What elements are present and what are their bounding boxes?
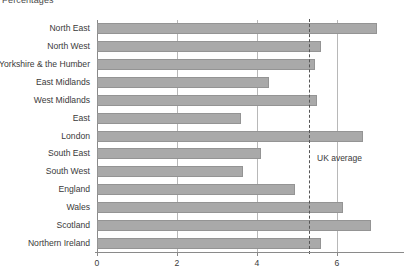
category-label-yorkshire-the-humber: Yorkshire & the Humber: [0, 59, 90, 70]
bar-chart: Percentages North EastNorth WestYorkshir…: [0, 0, 406, 277]
bar-england: [97, 184, 295, 195]
bar-row: [97, 202, 337, 213]
bar-scotland: [97, 220, 371, 231]
bar-row: [97, 77, 337, 88]
bar-row: [97, 113, 337, 124]
bar-row: [97, 95, 337, 106]
bar-row: [97, 220, 337, 231]
category-label-scotland: Scotland: [57, 220, 90, 231]
y-axis-category-labels: North EastNorth WestYorkshire & the Humb…: [0, 20, 93, 252]
category-label-south-west: South West: [46, 166, 90, 177]
category-label-wales: Wales: [66, 202, 90, 213]
x-tick-mark-2: [177, 252, 178, 256]
chart-title: Percentages: [2, 0, 54, 5]
x-tick-label-0: 0: [95, 258, 100, 268]
bar-row: [97, 23, 337, 34]
x-tick-label-4: 4: [255, 258, 260, 268]
bar-wales: [97, 202, 343, 213]
bar-south-west: [97, 166, 243, 177]
x-axis-line: [95, 252, 404, 253]
bar-row: [97, 184, 337, 195]
bar-north-west: [97, 41, 321, 52]
bar-west-midlands: [97, 95, 317, 106]
category-label-south-east: South East: [48, 148, 90, 159]
bar-east: [97, 113, 241, 124]
category-label-north-west: North West: [47, 41, 90, 52]
bar-row: [97, 131, 337, 142]
category-label-northern-ireland: Northern Ireland: [28, 238, 90, 249]
category-label-west-midlands: West Midlands: [34, 95, 90, 106]
x-tick-mark-0: [97, 252, 98, 256]
category-label-east: East: [73, 113, 90, 124]
bar-south-east: [97, 148, 261, 159]
category-label-east-midlands: East Midlands: [36, 77, 90, 88]
x-tick-mark-6: [337, 252, 338, 256]
bar-yorkshire-the-humber: [97, 59, 315, 70]
category-label-london: London: [61, 131, 90, 142]
uk-average-label: UK average: [317, 153, 362, 163]
bar-east-midlands: [97, 77, 269, 88]
bar-row: [97, 59, 337, 70]
bar-london: [97, 131, 363, 142]
bar-row: [97, 148, 337, 159]
plot-area: [97, 20, 337, 252]
bar-north-east: [97, 23, 377, 34]
x-tick-label-6: 6: [335, 258, 340, 268]
category-label-north-east: North East: [49, 23, 90, 34]
x-tick-mark-4: [257, 252, 258, 256]
bar-row: [97, 238, 337, 249]
bar-row: [97, 166, 337, 177]
bar-northern-ireland: [97, 238, 321, 249]
category-label-england: England: [58, 184, 90, 195]
uk-average-reference-line: [309, 19, 310, 254]
bar-row: [97, 41, 337, 52]
x-tick-label-2: 2: [175, 258, 180, 268]
